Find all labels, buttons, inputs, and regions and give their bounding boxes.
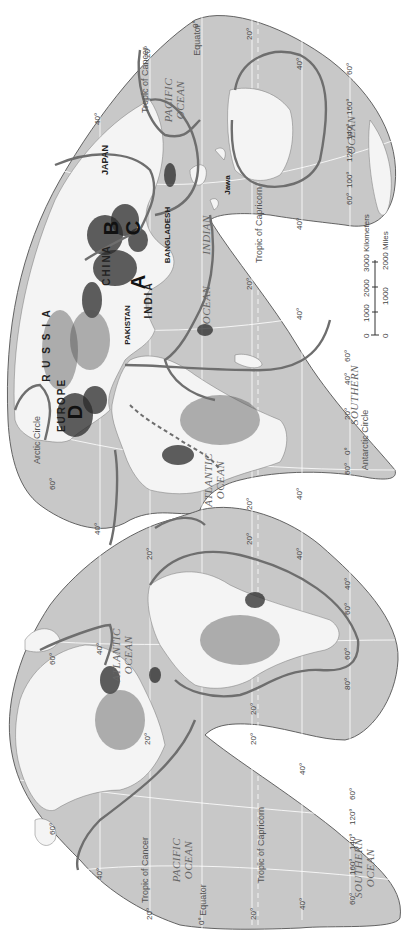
svg-text:40°: 40° bbox=[298, 763, 307, 775]
svg-text:60°: 60° bbox=[348, 893, 357, 905]
svg-text:20°: 20° bbox=[143, 733, 152, 745]
svg-text:20°: 20° bbox=[245, 28, 254, 40]
svg-text:40°: 40° bbox=[95, 643, 104, 655]
svg-text:20°: 20° bbox=[343, 408, 352, 420]
svg-text:160°: 160° bbox=[345, 98, 354, 115]
svg-text:40°: 40° bbox=[343, 578, 352, 590]
label-bangladesh: BANGLADESH bbox=[163, 207, 172, 264]
svg-text:3000 Kilometers: 3000 Kilometers bbox=[362, 214, 371, 272]
svg-text:100°: 100° bbox=[345, 171, 354, 188]
label-equator-west: Equator bbox=[198, 884, 208, 916]
ocean-label-atlantic-south: ATLANTIC OCEAN bbox=[202, 453, 226, 508]
svg-text:PACIFIC: PACIFIC bbox=[170, 838, 182, 883]
ocean-label-atlantic-north: ATLANTIC OCEAN bbox=[110, 628, 134, 683]
svg-text:60°: 60° bbox=[345, 193, 354, 205]
label-tropic-capricorn-west: Tropic of Capricorn bbox=[256, 807, 266, 883]
svg-text:40°: 40° bbox=[295, 548, 304, 560]
region-marker-b: B bbox=[100, 221, 122, 235]
svg-text:160°: 160° bbox=[348, 858, 357, 875]
svg-text:INDIAN: INDIAN bbox=[200, 215, 212, 256]
svg-text:60°: 60° bbox=[343, 603, 352, 615]
label-china: CHINA bbox=[101, 244, 112, 286]
svg-text:80°: 80° bbox=[343, 678, 352, 690]
region-marker-c: C bbox=[122, 221, 144, 235]
label-tropic-capricorn-east: Tropic of Capricorn bbox=[254, 187, 264, 263]
svg-text:40°: 40° bbox=[295, 308, 304, 320]
svg-text:60°: 60° bbox=[345, 63, 354, 75]
scale-bar: 0 1000 2000 3000 Kilometers 0 1000 2000 … bbox=[362, 214, 390, 338]
svg-text:OCEAN: OCEAN bbox=[364, 849, 376, 888]
svg-text:PACIFIC: PACIFIC bbox=[162, 78, 174, 123]
svg-text:20°: 20° bbox=[245, 498, 254, 510]
svg-text:60°: 60° bbox=[48, 478, 57, 490]
svg-text:ATLANTIC: ATLANTIC bbox=[110, 628, 122, 683]
ocean-label-pacific-east: PACIFIC OCEAN bbox=[162, 78, 186, 123]
region-marker-d: D bbox=[64, 405, 86, 419]
svg-text:60°: 60° bbox=[343, 350, 352, 362]
svg-text:OCEAN: OCEAN bbox=[122, 636, 134, 675]
svg-text:40°: 40° bbox=[93, 523, 102, 535]
svg-text:60°: 60° bbox=[48, 823, 57, 835]
world-population-map: PACIFIC OCEAN INDIAN OCEAN ATLANTIC OCEA… bbox=[0, 0, 417, 932]
svg-text:1000: 1000 bbox=[381, 287, 390, 305]
svg-text:20°: 20° bbox=[145, 908, 154, 920]
svg-text:0: 0 bbox=[362, 333, 371, 338]
svg-text:2000: 2000 bbox=[362, 279, 371, 297]
svg-text:60°: 60° bbox=[348, 788, 357, 800]
svg-text:60°: 60° bbox=[343, 463, 352, 475]
svg-text:OCEAN: OCEAN bbox=[174, 81, 186, 120]
svg-text:0: 0 bbox=[381, 333, 390, 338]
svg-text:40°: 40° bbox=[93, 113, 102, 125]
svg-text:ATLANTIC: ATLANTIC bbox=[202, 453, 214, 508]
svg-text:120°: 120° bbox=[345, 145, 354, 162]
label-russia: R U S S I A bbox=[41, 308, 52, 381]
svg-text:20°: 20° bbox=[143, 46, 152, 58]
svg-text:2000 Miles: 2000 Miles bbox=[381, 231, 390, 270]
svg-text:40°: 40° bbox=[343, 373, 352, 385]
svg-text:60°: 60° bbox=[343, 648, 352, 660]
label-tropic-cancer-west: Tropic of Cancer bbox=[140, 837, 150, 903]
svg-text:OCEAN: OCEAN bbox=[182, 841, 194, 880]
svg-text:20°: 20° bbox=[145, 548, 154, 560]
svg-text:140°: 140° bbox=[345, 123, 354, 140]
svg-text:0°: 0° bbox=[191, 20, 200, 28]
svg-text:20°: 20° bbox=[245, 533, 254, 545]
label-japan: JAPAN bbox=[100, 145, 110, 175]
region-marker-a: A bbox=[127, 275, 149, 289]
svg-text:0°: 0° bbox=[343, 447, 352, 455]
svg-text:40°: 40° bbox=[295, 58, 304, 70]
svg-text:40°: 40° bbox=[295, 488, 304, 500]
svg-text:20°: 20° bbox=[245, 278, 254, 290]
svg-text:40°: 40° bbox=[95, 868, 104, 880]
svg-text:OCEAN: OCEAN bbox=[214, 461, 226, 500]
svg-text:20°: 20° bbox=[249, 733, 258, 745]
label-antarctic-circle: Antarctic Circle bbox=[360, 410, 370, 471]
svg-text:120°: 120° bbox=[348, 808, 357, 825]
label-arctic-circle: Arctic Circle bbox=[32, 416, 42, 464]
svg-text:140°: 140° bbox=[348, 833, 357, 850]
svg-text:40°: 40° bbox=[298, 898, 307, 910]
svg-text:20°: 20° bbox=[249, 908, 258, 920]
svg-text:0°: 0° bbox=[197, 917, 206, 925]
ocean-label-pacific-west: PACIFIC OCEAN bbox=[170, 838, 194, 883]
label-pakistan: PAKISTAN bbox=[123, 305, 132, 345]
svg-text:20°: 20° bbox=[249, 703, 258, 715]
svg-text:40°: 40° bbox=[295, 218, 304, 230]
label-jawa: Jawa bbox=[223, 175, 232, 195]
svg-text:OCEAN: OCEAN bbox=[200, 286, 212, 325]
svg-text:60°: 60° bbox=[48, 653, 57, 665]
svg-text:1000: 1000 bbox=[362, 304, 371, 322]
